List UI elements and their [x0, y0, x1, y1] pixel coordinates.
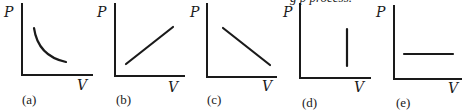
x-axis-label: V — [354, 79, 366, 95]
y-axis-label: P — [375, 4, 386, 20]
x-axis-label: V — [168, 79, 180, 95]
graph-a: P V (a) — [3, 3, 93, 107]
x-axis-label: V — [262, 78, 274, 94]
y-axis-label: P — [3, 4, 14, 20]
caption: (b) — [116, 92, 131, 107]
isothermal-curve — [34, 28, 66, 62]
caption: (c) — [207, 92, 221, 107]
graph-e: P V (e) — [375, 4, 462, 110]
caption: (a) — [22, 92, 36, 107]
graph-b: P V (b) — [96, 3, 185, 107]
x-axis-label: V — [77, 77, 89, 93]
y-axis-label: P — [282, 4, 293, 20]
graph-d: P V (d) — [282, 3, 371, 110]
axes — [207, 3, 277, 77]
axes — [300, 3, 371, 78]
axes — [115, 3, 185, 76]
decreasing-line — [223, 28, 270, 65]
y-axis-label: P — [189, 4, 200, 20]
caption: (e) — [396, 95, 410, 110]
increasing-line — [126, 27, 173, 64]
caption: (d) — [302, 95, 317, 110]
graph-c: P V (c) — [189, 3, 277, 107]
axes — [394, 5, 462, 79]
pv-diagrams: g p process. P V (a) P V (b) P V (c) P V… — [0, 0, 462, 110]
x-axis-label: V — [448, 80, 460, 96]
y-axis-label: P — [96, 4, 107, 20]
axes — [22, 3, 93, 75]
